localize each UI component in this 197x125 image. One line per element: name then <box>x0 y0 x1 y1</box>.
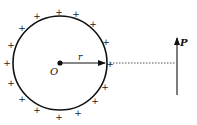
center-label: O <box>50 66 58 77</box>
plus-charge-icon: + <box>33 105 41 115</box>
radius-label: r <box>78 52 83 62</box>
plus-charge-icon: + <box>18 94 26 104</box>
point-p-label: P <box>179 37 188 48</box>
plus-charge-icon: + <box>106 59 114 69</box>
plus-charge-icon: + <box>102 37 110 47</box>
plus-charge-icon: + <box>3 58 11 68</box>
plus-charge-icon: + <box>101 82 109 92</box>
plus-charge-icon: + <box>18 23 26 33</box>
plus-charge-icon: + <box>72 9 80 19</box>
charged-sphere-diagram: O r P ++++++++++++++++ <box>0 0 197 125</box>
plus-charge-icon: + <box>74 108 82 118</box>
plus-charge-icon: + <box>89 19 97 29</box>
plus-charge-icon: + <box>55 7 63 17</box>
plus-charge-icon: + <box>33 11 41 21</box>
plus-charge-icon: + <box>7 40 15 50</box>
plus-charge-icon: + <box>7 78 15 88</box>
plus-charge-icon: + <box>91 96 99 106</box>
plus-charge-icon: + <box>55 112 63 122</box>
